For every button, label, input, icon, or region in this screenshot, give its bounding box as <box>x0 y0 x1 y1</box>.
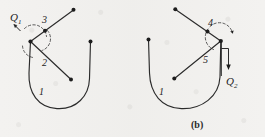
joint-pivot <box>28 39 32 43</box>
rotation-arc-lower <box>23 46 34 58</box>
link-label-3: 3 <box>42 14 47 25</box>
torque-label-q1: Q1 <box>10 11 21 26</box>
link-2-bar <box>31 42 72 80</box>
link-3-bar <box>31 10 74 42</box>
link-label-1-right: 1 <box>159 86 164 97</box>
joint-link3-end <box>72 8 76 12</box>
rotation-arc-upper-right <box>210 23 233 33</box>
link-label-2: 2 <box>42 57 47 68</box>
joint-pivot <box>219 39 223 43</box>
link-5-bar <box>175 41 221 79</box>
link-label-1-left: 1 <box>39 86 44 97</box>
joint-frame-right-end <box>89 40 93 44</box>
figure-container: Q1 3 2 1 4 5 1 Q2 (b) <box>0 0 265 137</box>
figure-caption: (b) <box>191 119 203 130</box>
joint-link4-mid <box>206 30 210 34</box>
right-panel-diagram <box>133 0 265 137</box>
joint-link2-end <box>69 78 73 82</box>
joint-frame-left-end <box>147 38 151 42</box>
link-4-bar <box>176 10 221 42</box>
torque-label-q1-subscript: 1 <box>18 18 22 26</box>
torque-arrow-q2 <box>221 41 231 76</box>
rotation-arc-right <box>42 31 51 51</box>
link-label-5: 5 <box>203 54 208 65</box>
torque-label-q2-symbol: Q <box>226 75 234 87</box>
joint-link5-end <box>172 77 176 81</box>
torque-label-q2-subscript: 2 <box>234 82 238 90</box>
torque-label-q1-symbol: Q <box>10 11 18 23</box>
joint-link3-mid <box>43 29 47 33</box>
joint-link4-end <box>173 7 177 11</box>
link-1-ground-curve <box>29 42 91 109</box>
torque-label-q2: Q2 <box>226 75 237 90</box>
link-label-4: 4 <box>208 17 213 28</box>
